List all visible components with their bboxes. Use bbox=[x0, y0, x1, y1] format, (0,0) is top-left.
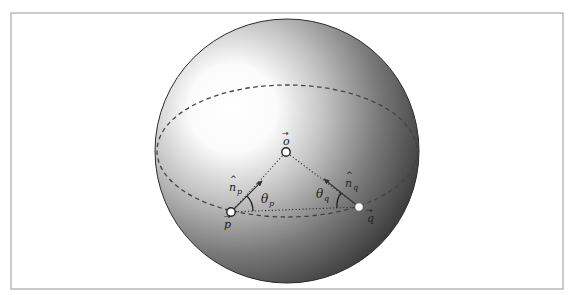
vector-arrow-p: → bbox=[224, 212, 231, 221]
hat-n-q: ^ bbox=[346, 171, 353, 180]
vector-arrow-o: → bbox=[282, 129, 289, 138]
svg-text:q: q bbox=[353, 183, 358, 192]
point-q bbox=[355, 203, 363, 211]
vector-arrow-q: → bbox=[366, 206, 373, 215]
point-o bbox=[282, 148, 290, 156]
svg-text:θ: θ bbox=[261, 192, 269, 206]
sphere-diagram: o → p → q → n p ^ n q ^ θ p θ q bbox=[0, 0, 571, 295]
hat-n-p: ^ bbox=[230, 175, 237, 184]
label-p: p → bbox=[224, 212, 231, 231]
svg-text:θ: θ bbox=[316, 187, 324, 201]
svg-text:p: p bbox=[237, 187, 242, 196]
svg-text:q: q bbox=[324, 194, 329, 203]
svg-text:p: p bbox=[269, 199, 274, 208]
